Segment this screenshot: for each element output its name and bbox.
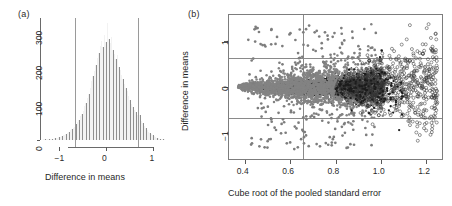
scatter-point <box>294 67 297 70</box>
scatter-point <box>435 59 438 62</box>
scatter-x-tick-label: 1.0 <box>373 166 385 176</box>
scatter-point <box>313 116 316 119</box>
scatter-point <box>390 96 392 98</box>
scatter-point <box>306 72 309 75</box>
scatter-y-tick-label: 1 <box>220 40 230 45</box>
scatter-point <box>256 27 259 30</box>
scatter-point <box>348 68 350 70</box>
scatter-point <box>286 99 289 102</box>
scatter-point <box>274 77 277 80</box>
scatter-point <box>368 112 370 114</box>
scatter-point <box>379 56 381 58</box>
scatter-point <box>317 84 320 87</box>
scatter-point <box>359 85 361 87</box>
scatter-point <box>339 47 342 50</box>
scatter-point <box>294 91 297 94</box>
scatter-point <box>280 96 283 99</box>
scatter-point <box>293 125 296 128</box>
scatter-point <box>272 89 275 92</box>
scatter-point <box>411 60 414 63</box>
scatter-point <box>330 56 333 59</box>
scatter-point <box>284 131 287 134</box>
scatter-point <box>427 23 430 26</box>
scatter-point <box>302 95 305 98</box>
scatter-point <box>267 86 270 89</box>
scatter-point <box>408 24 411 27</box>
histogram-x-tick-mark <box>59 147 60 151</box>
scatter-point <box>346 57 349 60</box>
scatter-point <box>391 65 394 68</box>
figure-container: (a) 0100200300 −101 Difference in means … <box>0 0 452 206</box>
scatter-point <box>320 42 323 45</box>
scatter-point <box>362 96 364 98</box>
scatter-point <box>361 109 364 112</box>
scatter-point <box>373 77 375 79</box>
scatter-point <box>315 112 318 115</box>
scatter-x-tick-mark <box>290 160 291 164</box>
scatter-point <box>366 54 369 57</box>
scatter-point <box>344 59 347 62</box>
scatter-point <box>297 121 300 124</box>
scatter-point <box>336 104 339 107</box>
histogram-reference-line <box>138 18 139 148</box>
scatter-point <box>340 101 343 104</box>
histogram-x-tick-mark <box>153 147 154 151</box>
panel-a-label: (a) <box>18 9 30 19</box>
scatter-x-tick-label: 0.6 <box>282 166 294 176</box>
scatter-point <box>305 134 308 137</box>
scatter-point <box>327 121 330 124</box>
scatter-point <box>283 105 286 108</box>
scatter-point <box>350 109 352 111</box>
scatter-point <box>370 144 373 147</box>
scatter-point <box>398 104 401 107</box>
scatter-point <box>370 54 373 57</box>
scatter-point <box>327 143 330 146</box>
scatter-point <box>265 74 268 77</box>
scatter-point <box>371 123 374 126</box>
scatter-point <box>416 105 419 108</box>
scatter-point <box>346 62 349 65</box>
scatter-point <box>266 146 269 149</box>
scatter-point <box>343 123 346 126</box>
scatter-point <box>344 88 346 90</box>
scatter-point <box>384 72 386 74</box>
scatter-point <box>350 68 353 71</box>
scatter-point <box>283 75 286 78</box>
scatter-point <box>260 102 263 105</box>
scatter-point <box>340 98 343 101</box>
scatter-point <box>381 71 383 73</box>
scatter-point <box>283 121 286 124</box>
scatter-point <box>343 74 345 76</box>
scatter-point <box>290 80 293 83</box>
scatter-point <box>359 91 361 93</box>
scatter-point <box>309 81 312 84</box>
scatter-point <box>249 84 252 87</box>
scatter-point <box>294 83 297 86</box>
scatter-point <box>359 79 361 81</box>
scatter-point <box>418 57 421 60</box>
scatter-point <box>255 78 258 81</box>
scatter-point <box>262 78 265 81</box>
scatter-point <box>328 69 331 72</box>
scatter-point <box>270 120 273 123</box>
scatter-point <box>300 138 303 141</box>
scatter-point <box>371 83 373 85</box>
scatter-point <box>263 146 266 149</box>
scatter-point <box>295 95 298 98</box>
scatter-point <box>321 108 324 111</box>
scatter-point <box>341 125 344 128</box>
scatter-point <box>245 85 248 88</box>
scatter-point <box>247 97 250 100</box>
scatter-point <box>304 82 307 85</box>
scatter-point <box>260 138 263 141</box>
scatter-point <box>366 89 368 91</box>
scatter-point <box>297 62 300 65</box>
scatter-point <box>386 100 389 103</box>
scatter-point <box>259 78 262 81</box>
scatter-point <box>241 88 244 91</box>
scatter-point <box>278 67 281 70</box>
scatter-point <box>314 99 317 102</box>
scatter-point <box>269 96 272 99</box>
scatter-point <box>242 84 245 87</box>
scatter-point <box>278 81 281 84</box>
